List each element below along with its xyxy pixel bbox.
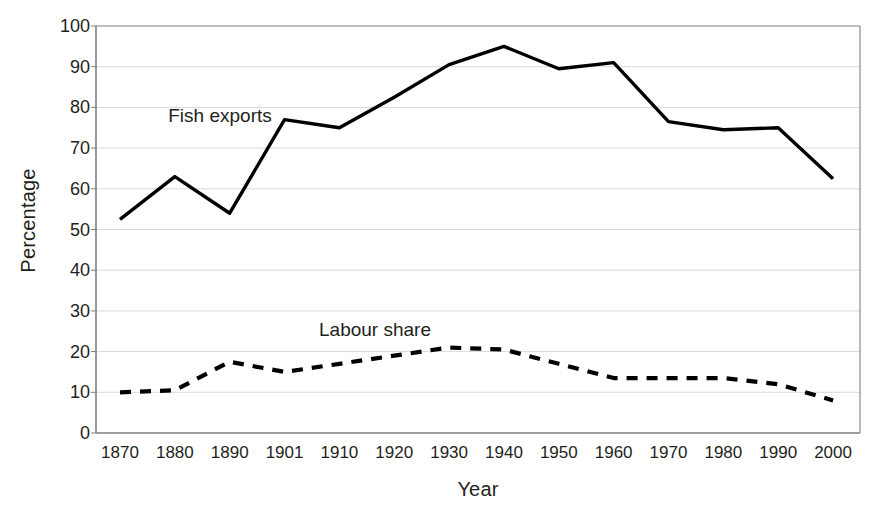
x-axis-tick-label: 1870 — [101, 443, 139, 463]
series-annotation-label: Labour share — [319, 319, 431, 341]
chart-container: Percentage 0102030405060708090100 187018… — [0, 0, 880, 523]
x-axis-tick-label: 1990 — [759, 443, 797, 463]
series-annotation-label: Fish exports — [168, 105, 271, 127]
x-axis-tick-label: 1980 — [704, 443, 742, 463]
x-axis-tick-label: 1940 — [485, 443, 523, 463]
x-axis-title: Year — [96, 478, 860, 501]
x-axis-tick-label: 1910 — [320, 443, 358, 463]
x-axis-tick-label: 1930 — [430, 443, 468, 463]
x-axis-tick-label: 1970 — [650, 443, 688, 463]
x-axis-tick-label: 1901 — [266, 443, 304, 463]
x-axis-tick-label: 1920 — [375, 443, 413, 463]
x-axis-tick-label: 1880 — [156, 443, 194, 463]
x-axis-tick-label: 1960 — [595, 443, 633, 463]
x-axis-tick-labels: 1870188018901901191019201930194019501960… — [0, 0, 880, 523]
x-axis-tick-label: 2000 — [814, 443, 852, 463]
x-axis-tick-label: 1950 — [540, 443, 578, 463]
x-axis-tick-label: 1890 — [211, 443, 249, 463]
